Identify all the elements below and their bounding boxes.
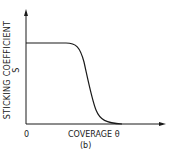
x-axis-label: COVERAGE θ [68, 130, 120, 139]
y-axis-arrow-icon [24, 9, 28, 16]
chart-plot [0, 0, 172, 164]
figure-caption: (b) [80, 141, 91, 150]
x-origin-label: 0 [24, 130, 29, 139]
y-axis-label: STICKING COEFFICIENT S [3, 20, 21, 120]
x-axis-arrow-icon [159, 122, 166, 126]
sticking-curve [26, 43, 122, 124]
